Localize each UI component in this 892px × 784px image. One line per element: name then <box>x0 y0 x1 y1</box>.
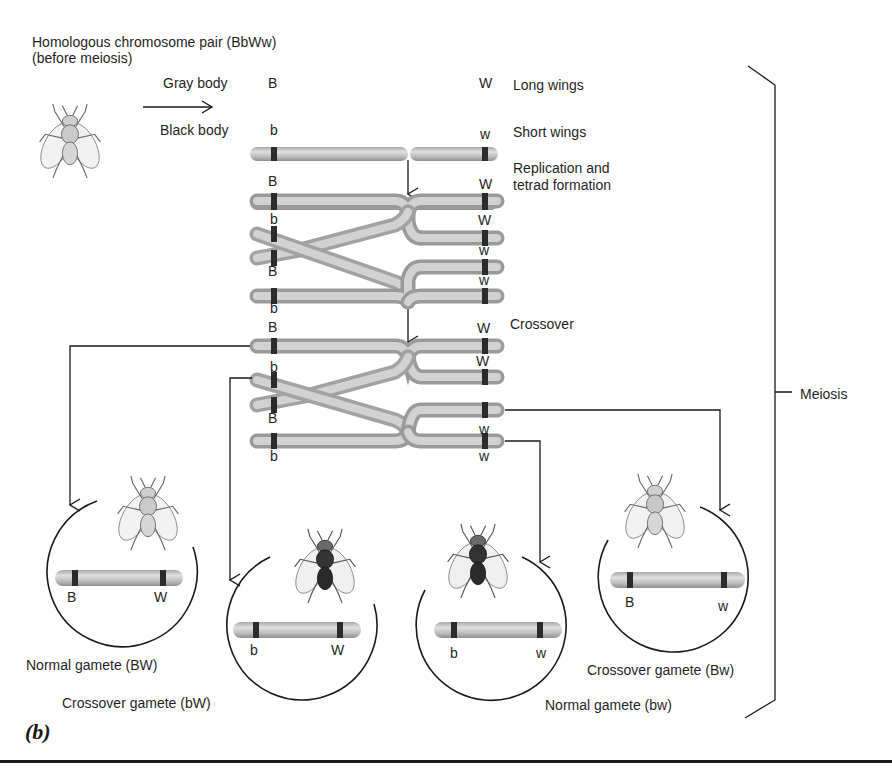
allele-label: W <box>477 321 490 335</box>
tetrad <box>257 201 497 302</box>
chromosome-BW <box>250 147 498 161</box>
allele-label: w <box>480 127 490 141</box>
allele-label: W <box>479 76 492 90</box>
title-line1: Homologous chromosome pair (BbWw) <box>32 34 276 50</box>
meiosis-bracket <box>745 66 792 718</box>
gamete-bw <box>416 524 566 700</box>
label-crossover: Crossover <box>510 316 574 332</box>
label-replication-2: tetrad formation <box>513 177 611 193</box>
allele-label: W <box>479 177 492 191</box>
allele-label: B <box>268 320 277 334</box>
label-meiosis: Meiosis <box>800 386 847 402</box>
allele-label: w <box>479 422 489 436</box>
allele-label: w <box>479 449 489 463</box>
title-line2: (before meiosis) <box>32 50 132 66</box>
gamete-bW <box>227 529 377 700</box>
label-replication-1: Replication and <box>513 160 610 176</box>
allele-label: W <box>476 354 489 368</box>
bottom-rule <box>0 760 892 763</box>
allele-label: B <box>67 590 76 604</box>
crossover-tetrad <box>257 346 497 441</box>
allele-label: b <box>450 646 458 660</box>
allele-label: W <box>478 213 491 227</box>
allele-label: B <box>625 595 634 609</box>
allele-label: w <box>536 646 546 660</box>
allele-label: b <box>250 643 258 657</box>
label-short-wings: Short wings <box>513 124 586 140</box>
allele-label: b <box>270 301 278 315</box>
gamete-connectors <box>70 346 720 580</box>
allele-label: B <box>268 174 277 188</box>
gamete-Bw <box>598 474 748 652</box>
allele-label: w <box>479 243 489 257</box>
allele-label: b <box>270 449 278 463</box>
allele-label: b <box>270 123 278 137</box>
allele-label: W <box>154 590 167 604</box>
allele-label: B <box>268 411 277 425</box>
label-gray-body: Gray body <box>163 75 228 91</box>
allele-label: b <box>270 212 278 226</box>
allele-label: W <box>331 643 344 657</box>
label-long-wings: Long wings <box>513 77 584 93</box>
allele-label: w <box>718 599 728 613</box>
gamete-caption: Normal gamete (bw) <box>545 697 672 713</box>
allele-label: b <box>270 360 278 374</box>
parent-fly-icon <box>34 104 106 178</box>
gamete-caption: Crossover gamete (bW) <box>62 695 211 711</box>
allele-label: B <box>268 264 277 278</box>
label-black-body: Black body <box>160 122 228 138</box>
figure-label: (b) <box>25 719 51 745</box>
allele-label: B <box>268 76 277 90</box>
allele-label: w <box>479 273 489 287</box>
gamete-caption: Normal gamete (BW) <box>26 657 157 673</box>
gamete-caption: Crossover gamete (Bw) <box>587 662 734 678</box>
